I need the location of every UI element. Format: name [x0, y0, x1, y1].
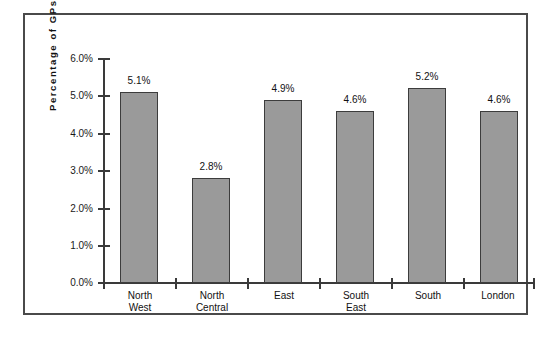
bar-label-london: 4.6%	[479, 94, 519, 105]
bar-label-north-central: 2.8%	[191, 161, 231, 172]
x-category-label-london: London	[462, 290, 534, 302]
x-tick-6	[533, 278, 535, 289]
y-tick-6	[98, 58, 110, 60]
bar-east[interactable]	[264, 100, 302, 283]
y-tick-5	[98, 95, 110, 97]
x-category-label-south-east: South East	[320, 290, 392, 314]
bar-north-west[interactable]	[120, 92, 158, 283]
bar-label-south: 5.2%	[407, 71, 447, 82]
y-tick-1	[98, 245, 110, 247]
y-tick-label-0: 0.0%	[53, 278, 93, 288]
y-tick-label-3: 3.0%	[53, 166, 93, 176]
y-tick-label-1: 1.0%	[53, 241, 93, 251]
bar-north-central[interactable]	[192, 178, 230, 283]
bar-label-south-east: 4.6%	[335, 94, 375, 105]
x-tick-1	[175, 278, 177, 289]
bar-london[interactable]	[480, 111, 518, 283]
y-tick-label-4: 4.0%	[53, 129, 93, 139]
x-category-label-north-central: North Central	[176, 290, 248, 314]
x-category-label-north-west: North West	[104, 290, 176, 314]
bar-label-east: 4.9%	[263, 83, 303, 94]
bar-label-north-west: 5.1%	[119, 75, 159, 86]
chart-frame: Percentage of GPs 6.0% 5.0% 4.0% 3.0% 2.…	[23, 13, 528, 315]
y-tick-2	[98, 208, 110, 210]
bar-south-east[interactable]	[336, 111, 374, 283]
y-tick-4	[98, 133, 110, 135]
y-tick-label-5: 5.0%	[53, 91, 93, 101]
x-category-label-south: South	[392, 290, 464, 302]
y-tick-label-6: 6.0%	[53, 54, 93, 64]
x-tick-3	[319, 278, 321, 289]
x-category-label-east: East	[248, 290, 320, 302]
x-tick-0	[103, 278, 105, 289]
x-tick-5	[463, 278, 465, 289]
x-tick-4	[391, 278, 393, 289]
y-tick-3	[98, 170, 110, 172]
bar-south[interactable]	[408, 88, 446, 283]
x-tick-2	[247, 278, 249, 289]
y-tick-label-2: 2.0%	[53, 204, 93, 214]
chart-figure: Percentage of GPs 6.0% 5.0% 4.0% 3.0% 2.…	[0, 0, 551, 340]
